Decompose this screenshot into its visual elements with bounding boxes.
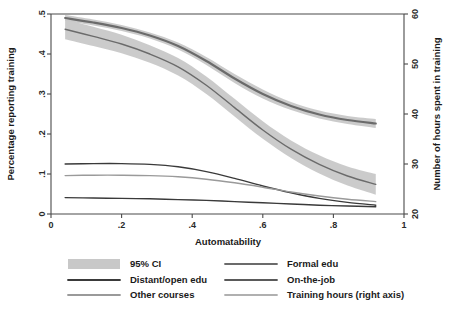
y-axis-title: Percentage reporting training <box>5 47 16 180</box>
y-tick-label: .1 <box>37 170 47 178</box>
x-tick-label: 0 <box>48 220 53 230</box>
legend-label: Formal edu <box>287 258 338 269</box>
y2-tick-label: 50 <box>410 59 420 69</box>
y2-tick-label: 40 <box>410 109 420 119</box>
x-tick-label: .8 <box>330 220 338 230</box>
legend-item-1[interactable]: 95% CI <box>68 258 161 269</box>
legend-label: Other courses <box>130 289 194 300</box>
y2-axis-title: Number of hours spent in training <box>431 37 442 190</box>
legend-label: Distant/open edu <box>130 274 207 285</box>
y-tick-label: .3 <box>37 90 47 98</box>
training-automatability-chart: 0.1.2.3.4.5 2030405060 0.2.4.6.81 Percen… <box>0 0 454 309</box>
chart-figure: 0.1.2.3.4.5 2030405060 0.2.4.6.81 Percen… <box>0 0 454 309</box>
legend-label: On-the-job <box>287 274 335 285</box>
y-tick-label: .4 <box>37 50 47 58</box>
x-tick-label: .6 <box>259 220 267 230</box>
y-tick-label: .2 <box>37 130 47 138</box>
y2-tick-label: 20 <box>410 209 420 219</box>
legend-label: Training hours (right axis) <box>287 289 404 300</box>
y-tick-label: 0 <box>37 211 47 216</box>
x-tick-label: .2 <box>118 220 126 230</box>
x-axis-title: Automatability <box>195 236 262 247</box>
y2-tick-label: 30 <box>410 159 420 169</box>
legend-swatch-band <box>68 259 120 269</box>
y-tick-label: .5 <box>37 10 47 18</box>
legend-label: 95% CI <box>130 258 161 269</box>
x-tick-label: .4 <box>188 220 196 230</box>
x-tick-label: 1 <box>401 220 406 230</box>
y2-tick-label: 60 <box>410 9 420 19</box>
